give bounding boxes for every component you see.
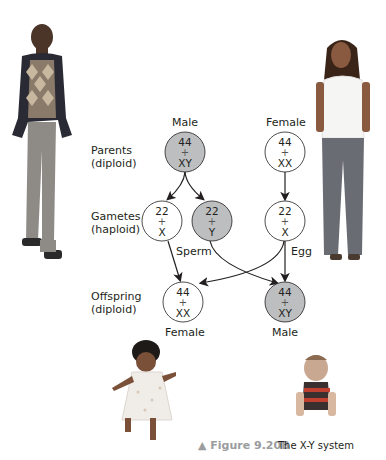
figure-number: ▲ Figure 9.20B (198, 439, 290, 452)
gametes-label-line2: (haploid) (91, 223, 141, 236)
gametes-row-label: Gametes (haploid) (91, 210, 141, 236)
figure-title: The X-Y system (278, 440, 354, 451)
svg-text:XX: XX (278, 157, 292, 169)
node-male-parent: 44 + XY (165, 132, 205, 172)
offspring-row-label: Offspring (diploid) (91, 290, 141, 316)
adult-woman-photo (316, 40, 370, 260)
node-egg-x: 22 + X (265, 201, 305, 241)
svg-text:X: X (281, 226, 288, 238)
male-offspring-label: Male (272, 326, 298, 339)
diagram-canvas: 44 + XY 44 + XX 22 + X 22 + Y 22 + X 44 … (0, 0, 386, 460)
node-female-parent: 44 + XX (265, 132, 305, 172)
baby-boy-photo (296, 355, 336, 416)
egg-label: Egg (291, 245, 312, 258)
parents-label-line1: Parents (91, 144, 136, 157)
offspring-label-line1: Offspring (91, 290, 141, 303)
svg-text:XX: XX (176, 307, 190, 319)
parents-row-label: Parents (diploid) (91, 144, 136, 170)
female-parent-label: Female (266, 116, 306, 129)
node-sperm-x: 22 + X (142, 201, 182, 241)
adult-man-photo (12, 24, 72, 259)
svg-text:Y: Y (208, 226, 216, 238)
sperm-label: Sperm (176, 245, 212, 258)
svg-text:XY: XY (178, 157, 192, 169)
svg-text:X: X (158, 226, 165, 238)
female-offspring-label: Female (165, 326, 205, 339)
gametes-label-line1: Gametes (91, 210, 141, 223)
svg-text:XY: XY (278, 307, 292, 319)
node-sperm-y: 22 + Y (192, 201, 232, 241)
node-offspring-male: 44 + XY (265, 282, 305, 322)
node-offspring-female: 44 + XX (163, 282, 203, 322)
offspring-label-line2: (diploid) (91, 303, 141, 316)
parents-label-line2: (diploid) (91, 157, 136, 170)
baby-girl-photo (112, 340, 176, 440)
male-parent-label: Male (172, 116, 198, 129)
